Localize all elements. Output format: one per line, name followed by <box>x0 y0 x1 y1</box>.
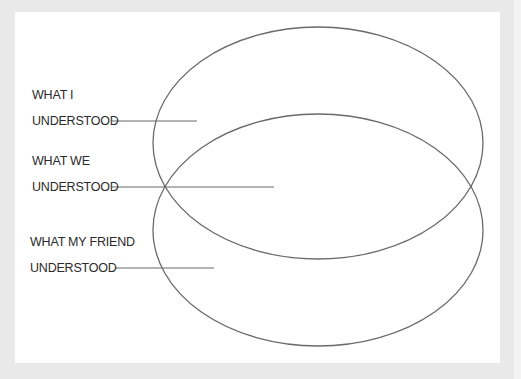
label-what-i-line1: WHAT I <box>32 88 73 102</box>
label-what-we-line2: UNDERSTOOD <box>32 180 119 194</box>
label-what-my-friend-line2: UNDERSTOOD <box>30 261 117 275</box>
label-what-we-line1: WHAT WE <box>32 154 90 168</box>
label-what-i-line2: UNDERSTOOD <box>32 114 119 128</box>
bottom-ellipse <box>153 114 483 346</box>
label-what-my-friend-line1: WHAT MY FRIEND <box>30 235 135 249</box>
top-ellipse <box>153 27 483 259</box>
